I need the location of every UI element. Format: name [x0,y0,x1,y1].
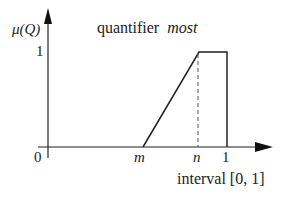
title-text: quantifier [97,19,159,36]
x-axis-arrow-icon [255,142,273,152]
y-axis-arrow-icon [44,8,52,24]
x-tick-m: m [134,150,145,165]
y-axis-label: μ(Q) [12,22,40,37]
origin-label: 0 [34,150,42,165]
x-tick-1: 1 [222,150,230,165]
title-emphasis: most [167,19,197,36]
y-tick-1: 1 [36,44,44,59]
diagram-title: quantifier most [97,20,197,36]
x-tick-n: n [193,150,201,165]
x-axis-label: interval [0, 1] [177,171,265,187]
membership-curve [143,52,227,147]
